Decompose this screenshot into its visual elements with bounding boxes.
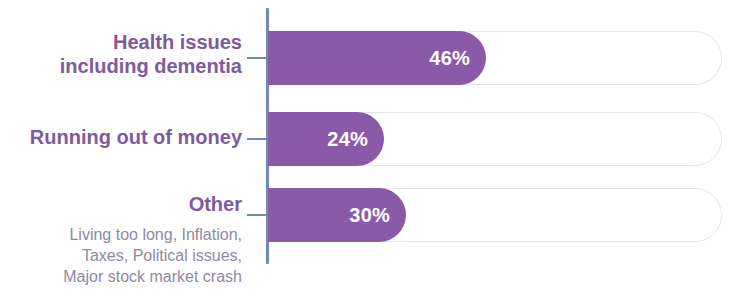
- category-label-running-out-of-money: Running out of money: [30, 126, 242, 150]
- category-label-other: Other: [189, 193, 242, 217]
- bar-other[interactable]: 30%: [268, 188, 406, 242]
- axis-tick-other: [247, 214, 267, 216]
- category-label-health-issues: Health issues including dementia: [60, 31, 242, 78]
- bar-running-out-of-money[interactable]: 24%: [268, 112, 384, 166]
- bar-value-label: 46%: [429, 47, 470, 70]
- category-sublabel-other: Living too long, Inflation, Taxes, Polit…: [63, 224, 242, 287]
- axis-tick-running-out-of-money: [247, 138, 267, 140]
- axis-tick-health-issues: [247, 57, 267, 59]
- horizontal-bar-chart: Health issues including dementia 46% Run…: [0, 0, 729, 306]
- bar-value-label: 24%: [327, 128, 368, 151]
- bar-value-label: 30%: [349, 204, 390, 227]
- bar-health-issues[interactable]: 46%: [268, 31, 486, 85]
